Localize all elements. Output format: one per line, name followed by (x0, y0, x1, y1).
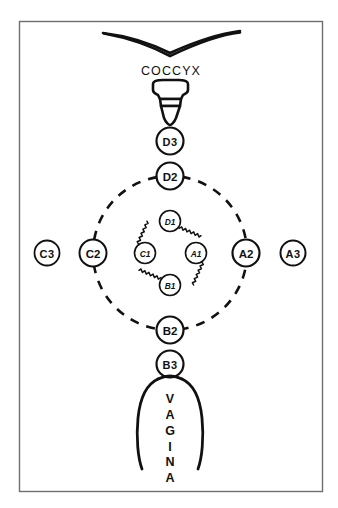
coccyx-label: COCCYX (141, 64, 201, 78)
node-b2-label: B2 (163, 325, 178, 337)
tier2-nodes: D2 A2 B2 C2 (80, 163, 260, 344)
node-c1-label: C1 (140, 249, 151, 259)
vagina-letter-g: G (165, 424, 175, 438)
node-b3-label: B3 (163, 359, 178, 371)
tier1-nodes: D1 A1 B1 C1 (135, 211, 207, 296)
node-c2[interactable]: C2 (80, 240, 107, 267)
vagina-letter-n: N (165, 455, 174, 469)
node-b1[interactable]: B1 (160, 275, 181, 296)
node-d1[interactable]: D1 (160, 211, 181, 232)
middle-tier-dashed-ring (93, 176, 247, 330)
node-a1[interactable]: A1 (186, 243, 207, 264)
vagina-outline-right-icon (182, 379, 203, 469)
vagina-letter-i: I (168, 440, 171, 454)
node-c2-label: C2 (86, 248, 101, 260)
vagina-group: V A G I N A (137, 376, 203, 485)
node-d1-label: D1 (165, 217, 176, 227)
zigzag-a1-b1-icon (192, 262, 203, 285)
node-d2[interactable]: D2 (157, 163, 184, 190)
node-a1-label: A1 (190, 249, 202, 259)
node-b2[interactable]: B2 (157, 317, 184, 344)
node-b3[interactable]: B3 (157, 351, 184, 378)
node-d3[interactable]: D3 (157, 128, 184, 155)
vagina-letter-a1: A (165, 408, 174, 422)
node-b1-label: B1 (165, 281, 176, 291)
vagina-letter-a2: A (165, 471, 174, 485)
node-a3-label: A3 (286, 248, 301, 260)
coccyx-bone-tip-icon (161, 106, 180, 125)
sacrum-curve-icon (103, 31, 240, 53)
vagina-letter-v: V (166, 392, 175, 406)
node-c3[interactable]: C3 (35, 241, 60, 266)
node-c1[interactable]: C1 (135, 243, 156, 264)
node-d2-label: D2 (163, 171, 178, 183)
zigzag-b1-c1-icon (139, 269, 161, 279)
figure-root: COCCYX D1 A1 (0, 0, 338, 508)
vagina-outline-icon (137, 379, 158, 469)
node-c3-label: C3 (40, 248, 55, 260)
zigzag-d1-a1-icon (179, 227, 201, 237)
coccyx-bone-icon (153, 80, 188, 99)
node-a2[interactable]: A2 (233, 240, 260, 267)
node-d3-label: D3 (163, 136, 178, 148)
node-a2-label: A2 (239, 248, 254, 260)
zigzag-c1-d1-icon (137, 221, 148, 244)
pelvic-landmark-diagram: COCCYX D1 A1 (0, 0, 338, 508)
node-a3[interactable]: A3 (281, 241, 306, 266)
coccyx-group: COCCYX (103, 31, 240, 125)
